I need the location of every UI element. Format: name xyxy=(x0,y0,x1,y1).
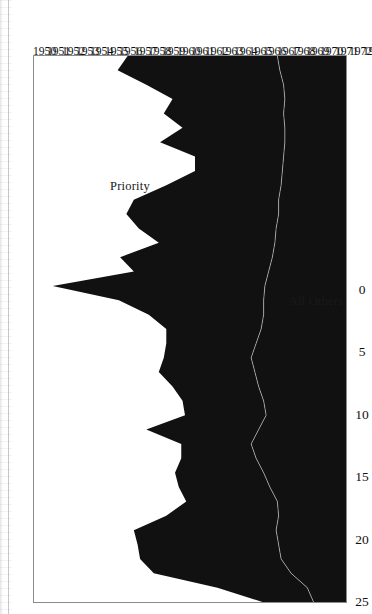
value-axis-tick-25: 25 xyxy=(342,594,372,610)
figure-page: 0510152025 19501951195219531954195519561… xyxy=(0,0,372,614)
page-edge-rule xyxy=(8,0,9,614)
value-axis: 0510152025 xyxy=(348,55,372,603)
series-label-all-others: All Others xyxy=(289,294,343,309)
year-axis: 1950195119521953195419551956195719581959… xyxy=(33,11,347,55)
stacked-area-plot xyxy=(34,56,346,602)
value-axis-tick-15: 15 xyxy=(342,469,372,485)
value-axis-tick-10: 10 xyxy=(342,407,372,423)
rotated-chart-container: 0510152025 19501951195219531954195519561… xyxy=(18,11,354,603)
value-axis-tick-0: 0 xyxy=(342,282,372,298)
value-axis-tick-20: 20 xyxy=(342,532,372,548)
series-label-priority: Priority xyxy=(110,179,150,194)
year-axis-tick-1973: 1973 xyxy=(363,45,372,57)
plot-frame xyxy=(33,55,347,603)
value-axis-tick-5: 5 xyxy=(342,344,372,360)
scan-edge-artifact xyxy=(0,0,12,614)
